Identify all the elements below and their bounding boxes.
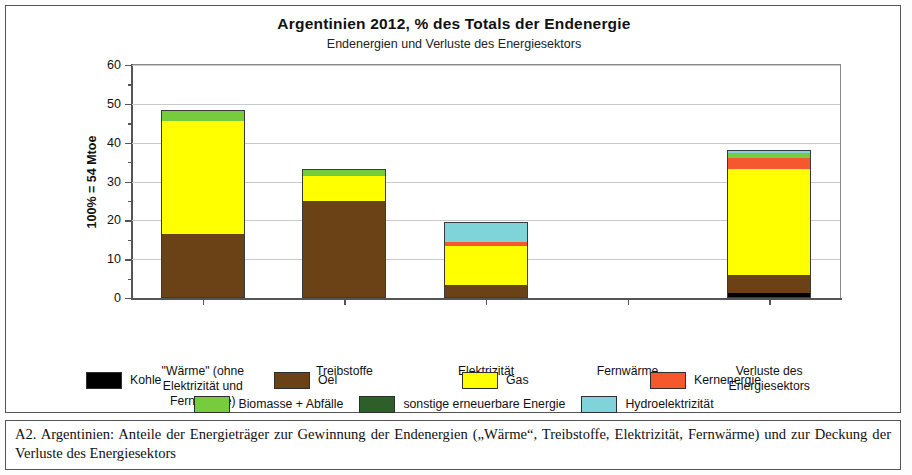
legend-swatch-icon <box>359 396 395 413</box>
bar-segment <box>727 153 811 158</box>
y-axis-label: 20 <box>81 213 121 227</box>
legend-swatch-icon <box>650 372 686 389</box>
bar-segment <box>161 110 245 112</box>
legend-item: Biomasse + Abfälle <box>194 396 343 413</box>
y-axis-label: 50 <box>81 97 121 111</box>
bar-segment <box>444 246 528 286</box>
legend-item: Kernenergie <box>650 372 822 389</box>
bar-1 <box>161 110 245 298</box>
bar-segment <box>444 242 528 245</box>
bar-segment <box>161 234 245 298</box>
bar-segment <box>161 111 245 121</box>
bar-2 <box>302 169 386 298</box>
y-axis-label: 0 <box>81 291 121 305</box>
legend-label: Kernenergie <box>694 373 761 387</box>
bar-segment <box>444 285 528 298</box>
bar-segment <box>727 158 811 169</box>
legend-swatch-icon <box>274 372 310 389</box>
legend-label: Oel <box>318 373 337 387</box>
legend-label: Hydroelektrizität <box>625 397 713 411</box>
bar-3 <box>444 222 528 298</box>
y-axis-tick <box>125 143 132 144</box>
legend-row-1: KohleOelGasKernenergie <box>6 368 902 392</box>
y-axis-minor-tick <box>128 123 132 124</box>
y-axis-minor-tick <box>128 201 132 202</box>
bar-segment <box>302 169 386 176</box>
y-axis-minor-tick <box>128 240 132 241</box>
legend-item: Oel <box>274 372 446 389</box>
bar-segment <box>727 150 811 153</box>
legend-item: Hydroelektrizität <box>581 396 713 413</box>
y-axis-tick <box>125 104 132 105</box>
bar-5 <box>727 150 811 298</box>
bar-segment <box>302 201 386 298</box>
plot-area: 100% = 54 Mtoe 0102030405060"Wärme" (ohn… <box>131 64 841 299</box>
x-axis-tick <box>344 298 345 305</box>
y-axis-minor-tick <box>128 162 132 163</box>
bar-segment <box>302 176 386 201</box>
y-axis-label: 60 <box>81 58 121 72</box>
legend-label: Gas <box>506 373 529 387</box>
y-axis-tick <box>125 65 132 66</box>
y-axis-label: 40 <box>81 136 121 150</box>
chart-subtitle: Endenergien und Verluste des Energiesekt… <box>6 37 902 51</box>
y-axis-tick <box>125 182 132 183</box>
figure-page: Argentinien 2012, % des Totals der Enden… <box>0 0 912 475</box>
legend-label: Biomasse + Abfälle <box>238 397 343 411</box>
legend-swatch-icon <box>581 396 617 413</box>
y-axis-minor-tick <box>128 279 132 280</box>
legend-item: Gas <box>462 372 634 389</box>
caption-box: A2. Argentinien: Anteile der Energieträg… <box>5 420 901 470</box>
y-axis-minor-tick <box>128 84 132 85</box>
chart-title: Argentinien 2012, % des Totals der Enden… <box>6 15 902 33</box>
figure-caption: A2. Argentinien: Anteile der Energieträg… <box>15 425 891 463</box>
bar-segment <box>727 293 811 298</box>
legend-swatch-icon <box>194 396 230 413</box>
x-axis-tick <box>769 298 770 305</box>
y-axis-tick <box>125 298 132 299</box>
y-axis-tick <box>125 259 132 260</box>
bar-segment <box>727 169 811 275</box>
bar-segment <box>727 275 811 293</box>
legend-label: sonstige erneuerbare Energie <box>403 397 565 411</box>
chart-frame: Argentinien 2012, % des Totals der Enden… <box>5 5 901 413</box>
x-axis-tick <box>486 298 487 305</box>
bar-segment <box>161 121 245 234</box>
chart-legend: KohleOelGasKernenergie Biomasse + Abfäll… <box>6 368 902 416</box>
y-axis-tick <box>125 220 132 221</box>
y-axis-label: 30 <box>81 175 121 189</box>
gridline <box>132 65 840 66</box>
bar-segment <box>444 222 528 242</box>
legend-swatch-icon <box>86 372 122 389</box>
legend-item: sonstige erneuerbare Energie <box>359 396 565 413</box>
legend-item: Kohle <box>86 372 258 389</box>
y-axis-label: 10 <box>81 252 121 266</box>
legend-swatch-icon <box>462 372 498 389</box>
legend-label: Kohle <box>130 373 161 387</box>
x-axis-tick <box>203 298 204 305</box>
x-axis-tick <box>628 298 629 305</box>
legend-row-2: Biomasse + Abfällesonstige erneuerbare E… <box>6 392 902 416</box>
gridline <box>132 104 840 105</box>
